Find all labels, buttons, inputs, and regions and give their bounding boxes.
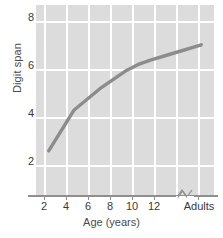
x-axis-title: Age (years) (0, 216, 223, 228)
y-tick-label: 2 (14, 156, 34, 167)
x-tick-label: 12 (131, 200, 177, 212)
digit-span-line-chart: Digit span 8 6 4 2 2 4 6 8 10 12 Adults (0, 0, 223, 238)
plot-area (36, 5, 214, 195)
data-line-layer (36, 5, 214, 195)
data-series-line (49, 45, 202, 151)
x-tick-label: Adults (176, 200, 222, 212)
y-tick-label: 8 (14, 12, 34, 23)
axis-break-icon (176, 188, 194, 198)
y-tick-label: 6 (14, 60, 34, 71)
y-tick-label: 4 (14, 108, 34, 119)
